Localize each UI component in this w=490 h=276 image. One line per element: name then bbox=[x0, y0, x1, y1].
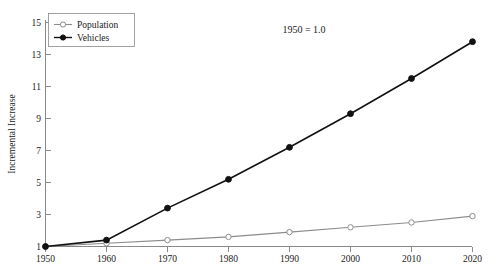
data-point[interactable] bbox=[165, 237, 170, 242]
data-point[interactable] bbox=[104, 237, 110, 243]
y-tick-label: 15 bbox=[32, 18, 42, 28]
data-point[interactable] bbox=[226, 234, 231, 239]
figure-container: 1 3 5 7 9 11 13 15 Incremental Increase … bbox=[0, 0, 490, 276]
data-point[interactable] bbox=[470, 213, 475, 218]
x-tick-label: 2000 bbox=[341, 254, 360, 264]
data-point[interactable] bbox=[348, 111, 354, 117]
data-point[interactable] bbox=[348, 225, 353, 230]
y-axis-title: Incremental Increase bbox=[7, 94, 17, 173]
legend-label-vehicles: Vehicles bbox=[77, 33, 109, 43]
y-tick-label: 9 bbox=[36, 114, 41, 124]
y-tick-label: 1 bbox=[36, 242, 41, 252]
normalization-annotation: 1950 = 1.0 bbox=[282, 24, 325, 35]
data-point[interactable] bbox=[409, 220, 414, 225]
x-tick-label: 1980 bbox=[219, 254, 238, 264]
data-point[interactable] bbox=[287, 229, 292, 234]
chart-legend: Population Vehicles bbox=[49, 14, 135, 47]
data-point[interactable] bbox=[226, 176, 232, 182]
x-tick-label: 2010 bbox=[402, 254, 421, 264]
legend-label-population: Population bbox=[77, 20, 118, 30]
data-point[interactable] bbox=[287, 144, 293, 150]
data-point[interactable] bbox=[470, 39, 476, 45]
x-tick-label: 1970 bbox=[158, 254, 177, 264]
x-tick-label: 2020 bbox=[463, 254, 482, 264]
data-point[interactable] bbox=[409, 76, 415, 82]
data-point[interactable] bbox=[43, 244, 49, 250]
y-tick-label: 11 bbox=[32, 82, 41, 92]
y-tick-label: 3 bbox=[36, 210, 41, 220]
filled-circle-icon bbox=[60, 35, 65, 40]
x-tick-label: 1950 bbox=[36, 254, 55, 264]
line-chart: 1 3 5 7 9 11 13 15 Incremental Increase … bbox=[0, 0, 490, 276]
y-tick-label: 5 bbox=[36, 178, 41, 188]
y-tick-label: 13 bbox=[32, 50, 42, 60]
x-tick-label: 1990 bbox=[280, 254, 299, 264]
data-point[interactable] bbox=[165, 205, 171, 211]
y-tick-label: 7 bbox=[36, 146, 41, 156]
x-tick-label: 1960 bbox=[97, 254, 116, 264]
open-circle-icon bbox=[60, 22, 65, 27]
